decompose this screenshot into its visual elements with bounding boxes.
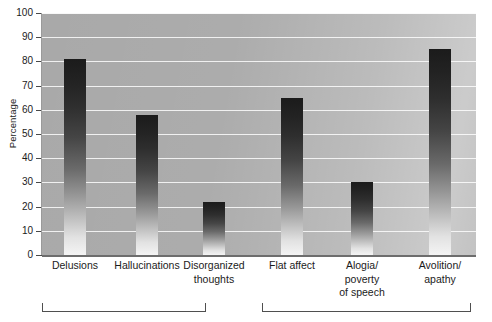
y-tick-label: 80: [22, 56, 33, 66]
y-tick-label: 50: [22, 129, 33, 139]
gridline: [42, 37, 476, 38]
bar: [136, 115, 158, 255]
bar: [203, 202, 225, 255]
y-tick-label: 100: [16, 8, 33, 18]
gridline: [42, 182, 476, 183]
y-tick-label: 70: [22, 81, 33, 91]
y-tick-label: 90: [22, 32, 33, 42]
bar: [429, 49, 451, 255]
bracket-right-tick: [470, 303, 471, 312]
gridline: [42, 207, 476, 208]
y-axis-line: [41, 13, 42, 255]
x-tick-label-line: of speech: [310, 286, 414, 300]
x-tick-label-line: Avolition/: [388, 259, 492, 273]
gridline: [42, 86, 476, 87]
x-tick-label-line: apathy: [388, 273, 492, 287]
x-axis-tick-labels: DelusionsHallucinationsDisorganizedthoug…: [42, 259, 476, 301]
group-bracket-positive-symptoms: [42, 303, 206, 312]
y-tick-label: 40: [22, 153, 33, 163]
x-tick-label-line: thoughts: [162, 273, 266, 287]
y-axis-tick-labels: 1009080706050403020100: [0, 0, 42, 322]
gridline: [42, 158, 476, 159]
bracket-line: [262, 311, 471, 312]
y-tick-label: 10: [22, 226, 33, 236]
bar: [64, 59, 86, 255]
gridline: [42, 13, 476, 14]
gridline: [42, 61, 476, 62]
gridline: [42, 134, 476, 135]
y-tick-label: 20: [22, 202, 33, 212]
x-axis-line: [42, 255, 476, 257]
gridline: [42, 231, 476, 232]
bracket-left-tick: [262, 303, 263, 312]
bar: [351, 182, 373, 255]
group-bracket-negative-symptoms: [262, 303, 471, 312]
bracket-left-tick: [42, 303, 43, 312]
bar-chart-figure: Percentage 1009080706050403020100 Delusi…: [0, 0, 492, 322]
x-tick-label: Avolition/apathy: [388, 259, 492, 286]
y-tick-label: 30: [22, 177, 33, 187]
bracket-right-tick: [205, 303, 206, 312]
gridline: [42, 110, 476, 111]
bracket-line: [42, 311, 206, 312]
plot-area: [42, 13, 476, 255]
bar: [281, 98, 303, 255]
y-tick-label: 60: [22, 105, 33, 115]
